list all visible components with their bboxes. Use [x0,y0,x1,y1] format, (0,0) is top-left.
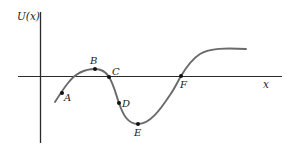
point-f [179,74,183,78]
label-c: C [112,66,120,77]
label-f: F [179,79,188,90]
point-c [107,75,111,79]
label-e: E [133,127,142,138]
x-axis-label: x [263,78,269,90]
potential-curve [55,49,246,124]
label-d: D [121,98,130,109]
label-a: A [63,92,71,103]
point-e [136,122,140,126]
point-b [93,67,97,71]
label-b: B [89,55,97,66]
potential-energy-diagram: U(x) x A B C D E F [0,0,286,152]
y-axis-label: U(x) [17,10,40,22]
point-d [117,101,121,105]
